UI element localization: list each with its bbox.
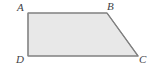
vertex-label-b: B [107, 1, 114, 12]
vertex-label-d: D [16, 54, 24, 65]
vertex-label-a: A [17, 2, 24, 13]
geometry-figure: A B C D [0, 0, 163, 76]
vertex-label-c: C [139, 54, 146, 65]
trapezoid-abcd-shape [28, 13, 138, 56]
